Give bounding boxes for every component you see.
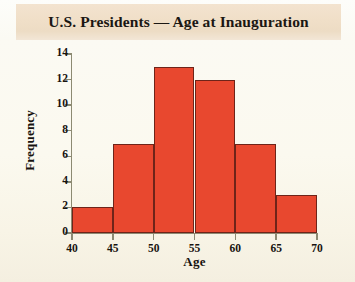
x-axis-tick bbox=[153, 233, 154, 240]
x-axis-tick bbox=[235, 233, 236, 240]
x-axis-tick bbox=[316, 233, 317, 240]
x-axis-tick-label: 40 bbox=[66, 242, 78, 254]
y-axis-tick-label: 6 bbox=[62, 148, 68, 160]
y-axis-tick-label: 2 bbox=[62, 199, 68, 211]
x-axis-tick bbox=[194, 233, 195, 240]
histogram-bar bbox=[235, 144, 276, 234]
x-axis-tick bbox=[71, 233, 72, 240]
x-axis-tick-label: 70 bbox=[311, 242, 323, 254]
histogram-bar bbox=[276, 195, 317, 233]
y-axis-tick-label: 12 bbox=[57, 72, 69, 84]
histogram-bar bbox=[154, 67, 195, 233]
page-title: U.S. Presidents — Age at Inauguration bbox=[48, 13, 308, 31]
x-axis-tick bbox=[275, 233, 276, 240]
y-axis-tick-label: 10 bbox=[57, 97, 69, 109]
title-banner: U.S. Presidents — Age at Inauguration bbox=[16, 4, 341, 40]
histogram-bar bbox=[195, 80, 236, 233]
y-axis-tick-label: 14 bbox=[57, 46, 69, 58]
x-axis-tick bbox=[112, 233, 113, 240]
x-axis-tick-label: 50 bbox=[148, 242, 160, 254]
histogram-bar bbox=[113, 144, 154, 234]
y-axis-tick-label: 8 bbox=[62, 123, 68, 135]
x-axis-tick-label: 65 bbox=[270, 242, 282, 254]
histogram-bar bbox=[72, 207, 113, 233]
x-axis-tick-label: 55 bbox=[189, 242, 201, 254]
x-axis-label: Age bbox=[72, 254, 317, 270]
y-axis-label: Frequency bbox=[22, 110, 38, 171]
x-axis-tick-label: 60 bbox=[230, 242, 242, 254]
y-axis-tick-label: 0 bbox=[62, 225, 68, 237]
plot-area: 02468101214 40455055606570 bbox=[72, 54, 317, 233]
y-axis-tick-label: 4 bbox=[62, 174, 68, 186]
histogram-figure: U.S. Presidents — Age at Inauguration 02… bbox=[0, 0, 355, 282]
x-axis-tick-label: 45 bbox=[107, 242, 119, 254]
